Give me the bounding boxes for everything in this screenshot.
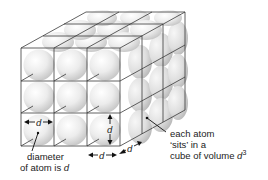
atom-caption-line3: cube of volume d3 [170, 149, 246, 161]
diameter-caption-symbol: d [64, 162, 70, 173]
diameter-caption-line2: of atom is d [20, 162, 70, 173]
atom-caption-line1: each atom [170, 128, 214, 139]
bottom-width-dimension: d [88, 150, 117, 161]
front-spheres [24, 50, 121, 146]
atom-caption-text: cube of volume [170, 150, 237, 161]
cubic-packing-diagram: d d d d diameter of atom is d each atom [0, 0, 268, 180]
bottom-width-label: d [99, 150, 105, 161]
depth-label: d [127, 143, 133, 154]
atom-caption-line2: ‘sits’ in a [170, 139, 207, 150]
diameter-caption-text: of atom is [20, 162, 64, 173]
front-height-label: d [107, 124, 113, 135]
atom-caption-exponent: 3 [242, 149, 246, 156]
depth-dimension: d [119, 141, 142, 154]
front-width-label: d [36, 117, 42, 128]
diameter-caption-line1: diameter [27, 151, 64, 162]
front-height-dimension: d [107, 114, 113, 145]
